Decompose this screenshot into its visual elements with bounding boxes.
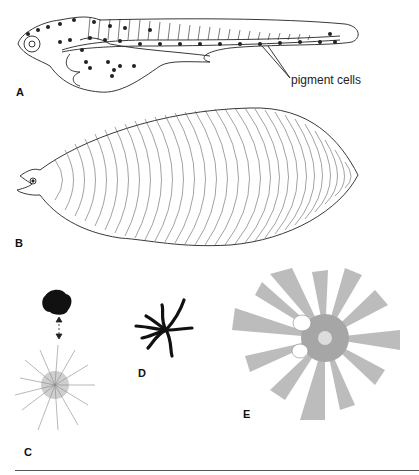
panel-c-cell-states [15,290,95,430]
panel-e-chromatophore [232,268,400,420]
figure-illustration [0,0,419,475]
bottom-rule [15,470,419,471]
annotation-pigment-cells: pigment cells [291,73,361,87]
panel-label-e: E [243,408,250,420]
myomeres-b [55,108,351,245]
pigment-cells-a [26,18,337,78]
panel-label-b: B [15,237,23,249]
panel-label-d: D [138,367,146,379]
panel-d-melanophore [136,300,192,356]
panel-b-leptocephalus [17,108,358,246]
panel-label-c: C [24,446,32,458]
panel-label-a: A [16,86,24,98]
